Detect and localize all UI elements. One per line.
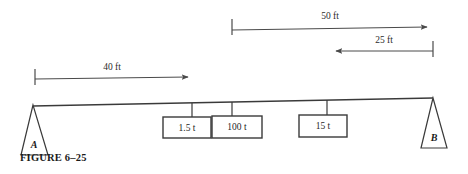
support-b: B bbox=[421, 98, 447, 148]
dimension-25ft: 25 ft bbox=[336, 35, 433, 57]
support-a: A bbox=[21, 105, 48, 155]
dimension-40ft-line bbox=[35, 77, 188, 79]
load-box-2: 100 t bbox=[212, 116, 262, 138]
dimension-25ft-label: 25 ft bbox=[375, 35, 393, 45]
support-b-label: B bbox=[430, 132, 438, 143]
figure-caption: FIGURE 6–25 bbox=[20, 152, 87, 163]
support-a-label: A bbox=[30, 139, 38, 150]
figure-container: 50 ft 25 ft 40 ft 1.5 t 100 t bbox=[0, 0, 468, 174]
load-box-3: 15 t bbox=[299, 115, 347, 137]
load-box-1: 1.5 t bbox=[163, 117, 211, 138]
dimension-40ft: 40 ft bbox=[35, 62, 188, 85]
dimension-50ft-line bbox=[232, 27, 427, 30]
beam-diagram: 50 ft 25 ft 40 ft 1.5 t 100 t bbox=[0, 0, 468, 174]
dimension-50ft-label: 50 ft bbox=[321, 11, 339, 21]
beam-member bbox=[33, 98, 433, 106]
load-box-2-label: 100 t bbox=[227, 122, 247, 132]
load-box-3-label: 15 t bbox=[316, 121, 331, 131]
dimension-40ft-label: 40 ft bbox=[103, 62, 121, 72]
dimension-50ft: 50 ft bbox=[232, 11, 427, 35]
load-box-1-label: 1.5 t bbox=[179, 123, 196, 133]
